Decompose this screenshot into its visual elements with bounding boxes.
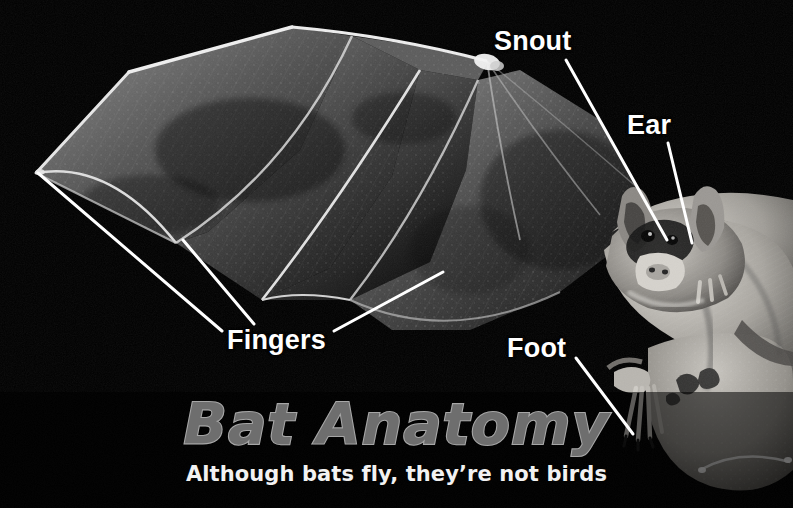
callout-label-fingers: Fingers xyxy=(227,325,326,356)
page-title: Bat Anatomy xyxy=(0,396,793,453)
bat-anatomy-poster: Snout Ear Fingers Foot Bat Anatomy Altho… xyxy=(0,0,793,508)
callout-label-snout: Snout xyxy=(494,26,571,57)
callout-label-ear: Ear xyxy=(627,110,671,141)
callout-label-foot: Foot xyxy=(507,333,566,364)
page-subtitle: Although bats fly, they’re not birds xyxy=(0,462,793,486)
title-block: Bat Anatomy Although bats fly, they’re n… xyxy=(0,396,793,486)
